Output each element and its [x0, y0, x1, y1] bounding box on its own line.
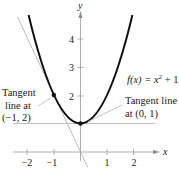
point-0-1 — [78, 121, 82, 125]
annotation-line: line at — [5, 100, 31, 111]
annotation-line: (−1, 2) — [2, 112, 31, 124]
y-axis-arrow-icon — [79, 11, 83, 18]
x-tick-label: 2 — [132, 157, 137, 168]
annotation-tangent-0-1: Tangent line at (0, 1) — [125, 95, 177, 120]
annotation-line: Tangent — [2, 87, 36, 98]
x-axis — [13, 149, 160, 155]
x-axis-label: x — [162, 146, 168, 157]
tangent-lines-diagram: −2 −1 1 2 2 3 4 x y f(x) = x2 + 1 Tangen… — [0, 0, 179, 172]
leader-line-left — [38, 98, 51, 106]
y-tick-label: 2 — [69, 91, 74, 102]
y-axis — [78, 11, 84, 161]
x-tick-label: 1 — [105, 157, 110, 168]
point-neg1-2 — [52, 93, 56, 97]
annotation-line: Tangent line — [125, 95, 177, 106]
annotation-line: at (0, 1) — [125, 108, 158, 120]
x-axis-arrow-icon — [153, 150, 160, 154]
function-label: f(x) = x2 + 1 — [127, 73, 179, 86]
y-tick-label: 4 — [69, 34, 74, 45]
x-tick-label: −1 — [47, 157, 58, 168]
leader-line-right — [88, 105, 122, 122]
x-tick-label: −2 — [22, 157, 33, 168]
function-label-lhs: f(x) = x — [127, 74, 159, 86]
y-axis-label: y — [77, 0, 83, 11]
annotation-tangent-neg1-2: Tangent line at (−1, 2) — [2, 87, 36, 124]
y-tick-label: 3 — [69, 62, 74, 73]
function-label-rhs: + 1 — [162, 74, 178, 85]
